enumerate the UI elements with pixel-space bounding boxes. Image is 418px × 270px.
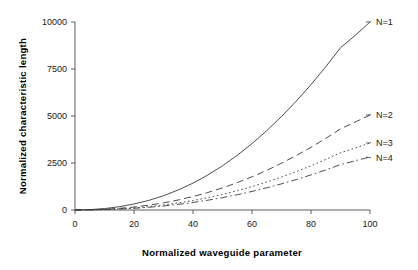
y-tick-label: 7500 xyxy=(47,64,67,74)
x-tick-label: 20 xyxy=(129,219,139,229)
series-label-n1: N=1 xyxy=(376,17,393,27)
chart-container: 025005000750010000 020406080100 N=1N=2N=… xyxy=(0,0,418,270)
curve-n1 xyxy=(75,22,370,210)
series-label-n2: N=2 xyxy=(376,110,393,120)
y-axis-title: Normalized characteristic length xyxy=(17,38,28,194)
x-tick-label: 40 xyxy=(188,219,198,229)
y-tick-label: 10000 xyxy=(42,17,67,27)
data-curves xyxy=(75,22,370,210)
x-tick-label: 60 xyxy=(247,219,257,229)
x-tick-label: 0 xyxy=(72,219,77,229)
x-tick-label: 80 xyxy=(306,219,316,229)
x-tick-label: 100 xyxy=(362,219,377,229)
y-tick-label: 0 xyxy=(62,205,67,215)
y-axis-ticks: 025005000750010000 xyxy=(42,17,75,215)
series-label-n3: N=3 xyxy=(376,138,393,148)
y-tick-label: 5000 xyxy=(47,111,67,121)
curve-n2 xyxy=(75,115,370,210)
series-labels: N=1N=2N=3N=4 xyxy=(366,17,393,163)
series-label-n4: N=4 xyxy=(376,153,393,163)
x-axis-title: Normalized waveguide parameter xyxy=(142,247,302,258)
curve-n3 xyxy=(75,143,370,210)
line-chart: 025005000750010000 020406080100 N=1N=2N=… xyxy=(0,0,418,270)
y-tick-label: 2500 xyxy=(47,158,67,168)
x-axis-ticks: 020406080100 xyxy=(72,210,377,229)
curve-n4 xyxy=(75,157,370,210)
